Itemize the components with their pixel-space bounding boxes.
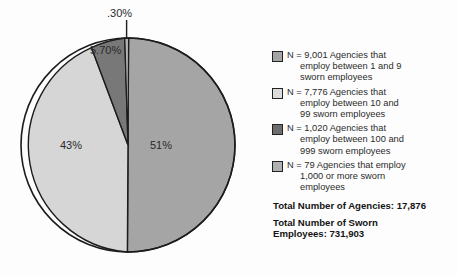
legend-label-1-line2: employ between 1 and 9 [287, 61, 401, 72]
pie-chart-figure: 51% 43% 5.70% .30% N = 9,001 Agencies th… [0, 0, 457, 276]
legend-label-3-line1: N = 1,020 Agencies that [287, 123, 386, 133]
legend-label-4-line1: N = 79 Agencies that employ [287, 160, 406, 170]
legend-label-4: N = 79 Agencies that employ 1,000 or mor… [287, 160, 406, 194]
legend-label-1-line1: N = 9,001 Agencies that [287, 50, 386, 60]
legend-label-2-line2: employ between 10 and [287, 98, 399, 109]
slice-label-51: 51% [150, 139, 172, 151]
legend: N = 9,001 Agencies that employ between 1… [272, 50, 454, 240]
legend-label-3-line3: 999 sworn employees [287, 146, 404, 157]
total-sworn-line1: Total Number of Sworn [273, 217, 378, 228]
legend-label-4-line2: 1,000 or more sworn [287, 171, 406, 182]
legend-label-2-line1: N = 7,776 Agencies that [287, 87, 386, 97]
slice-label-30: .30% [107, 7, 132, 19]
total-sworn-line2: Employees: 731,903 [273, 228, 364, 239]
legend-label-2-line3: 99 sworn employees [287, 109, 399, 120]
legend-item-2: N = 7,776 Agencies that employ between 1… [272, 87, 454, 121]
slice-label-43: 43% [60, 139, 82, 151]
legend-label-3-line2: employ between 100 and [287, 134, 404, 145]
slice-label-570: 5.70% [90, 44, 121, 56]
legend-item-4: N = 79 Agencies that employ 1,000 or mor… [272, 160, 454, 194]
legend-label-4-line3: employees [287, 182, 406, 193]
legend-swatch-icon-1 [272, 51, 283, 62]
pie-slice-51 [127, 38, 235, 252]
pie-chart-graphic: 51% 43% 5.70% .30% [0, 0, 258, 276]
legend-label-2: N = 7,776 Agencies that employ between 1… [287, 87, 399, 121]
legend-swatch-icon-4 [272, 161, 283, 172]
legend-label-1-line3: sworn employees [287, 72, 401, 83]
legend-item-3: N = 1,020 Agencies that employ between 1… [272, 123, 454, 157]
legend-swatch-icon-2 [272, 88, 283, 99]
total-sworn-employees: Total Number of Sworn Employees: 731,903 [272, 217, 454, 240]
total-agencies: Total Number of Agencies: 17,876 [272, 200, 454, 212]
legend-label-1: N = 9,001 Agencies that employ between 1… [287, 50, 401, 84]
totals-block: Total Number of Agencies: 17,876 Total N… [272, 200, 454, 240]
legend-label-3: N = 1,020 Agencies that employ between 1… [287, 123, 404, 157]
legend-swatch-icon-3 [272, 124, 283, 135]
pie-svg [0, 0, 258, 276]
legend-item-1: N = 9,001 Agencies that employ between 1… [272, 50, 454, 84]
